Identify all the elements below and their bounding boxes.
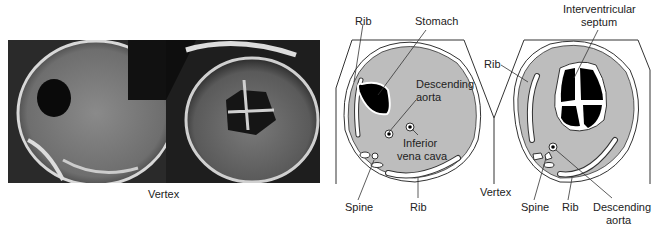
label-septum-1: Interventricular — [563, 3, 636, 15]
abdomen-section — [344, 24, 481, 200]
heart-section — [501, 30, 639, 200]
label-septum-2: septum — [581, 16, 617, 28]
label-heart-aorta-1: Descending — [593, 201, 651, 213]
label-descending-aorta-1: Descending — [416, 78, 474, 90]
label-ivc-1: Inferior — [403, 137, 437, 149]
schematic-diagrams — [0, 0, 661, 232]
label-vertex-center: Vertex — [480, 186, 511, 198]
label-rib-top: Rib — [355, 15, 372, 27]
label-stomach: Stomach — [415, 15, 458, 27]
label-heart-rib-bottom: Rib — [562, 201, 579, 213]
label-descending-aorta-2: aorta — [416, 91, 441, 103]
label-heart-spine: Spine — [521, 201, 549, 213]
label-rib-left: Rib — [484, 58, 501, 70]
label-ivc-2: vena cava — [397, 150, 447, 162]
label-heart-aorta-2: aorta — [606, 214, 631, 226]
label-spine: Spine — [345, 201, 373, 213]
label-rib-bottom: Rib — [410, 201, 427, 213]
